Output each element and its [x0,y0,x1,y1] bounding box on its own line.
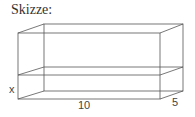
sketch-canvas: Skizze: x 10 5 [0,0,195,117]
level-right [160,67,183,75]
edge-bottom-left [18,91,44,99]
depth-label: 5 [172,96,178,108]
level-left [18,67,44,75]
back-face [44,24,183,91]
edge-top-left [18,24,44,33]
length-label: 10 [78,99,90,111]
height-label: x [9,83,15,95]
front-face [18,33,160,99]
cuboid-diagram [0,0,195,117]
edge-top-right [160,24,183,33]
